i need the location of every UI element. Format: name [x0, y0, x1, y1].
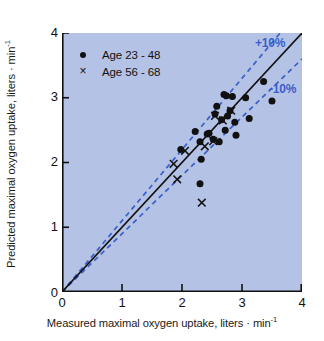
- y-axis-ticks: 4 3 2 1 0: [36, 0, 58, 341]
- legend-item-age-56-68: × Age 56 - 68: [72, 64, 192, 79]
- x-axis-title-text: Measured maximal oxygen uptake, liters ·…: [47, 317, 271, 329]
- data-point: [269, 97, 276, 104]
- figure-root: Predicted maximal oxygen uptake, liters …: [0, 0, 324, 341]
- y-tick-label: 1: [40, 220, 58, 233]
- data-point: [242, 94, 249, 101]
- annotation-plus-10-percent: +10%: [255, 36, 285, 50]
- x-tick-label: 0: [52, 296, 72, 310]
- y-tick-label: 2: [40, 155, 58, 168]
- cross-marker-icon: ×: [72, 64, 94, 79]
- y-tick-label: 3: [40, 90, 58, 103]
- data-point: [197, 138, 204, 145]
- data-point: [206, 130, 213, 137]
- data-point: [260, 78, 267, 85]
- data-point: [197, 180, 204, 187]
- circle-marker-icon: [72, 47, 94, 62]
- x-tick-label: 1: [112, 296, 132, 310]
- data-point: [173, 176, 181, 184]
- data-point: [246, 115, 253, 122]
- x-axis-title: Measured maximal oxygen uptake, liters ·…: [0, 317, 324, 329]
- x-axis-title-superscript: -1: [271, 315, 278, 324]
- data-point: [198, 199, 206, 207]
- legend-label: Age 56 - 68: [94, 66, 160, 78]
- y-tick-label: 4: [40, 26, 58, 39]
- data-point: [210, 136, 217, 143]
- data-point: [177, 146, 184, 153]
- annotation-minus-10-percent: -10%: [269, 82, 296, 96]
- data-point: [231, 119, 238, 126]
- data-point: [229, 93, 236, 100]
- legend: Age 23 - 48 × Age 56 - 68: [72, 47, 192, 81]
- data-point: [216, 138, 223, 145]
- data-point: [192, 128, 199, 135]
- data-point: [170, 160, 178, 168]
- plot-area: Age 23 - 48 × Age 56 - 68 +10% -10%: [62, 33, 302, 292]
- data-point: [198, 156, 205, 163]
- data-point: [227, 107, 234, 114]
- x-tick-label: 3: [232, 296, 252, 310]
- x-tick-label: 2: [172, 296, 192, 310]
- y-axis-title-text: Predicted maximal oxygen uptake, liters …: [5, 47, 17, 268]
- legend-label: Age 23 - 48: [94, 49, 160, 61]
- legend-item-age-23-48: Age 23 - 48: [72, 47, 192, 62]
- data-point: [222, 127, 229, 134]
- y-axis-title-superscript: -1: [3, 40, 12, 47]
- series-points-age-23-48: [177, 78, 275, 187]
- x-tick-label: 4: [292, 296, 312, 310]
- y-axis-title: Predicted maximal oxygen uptake, liters …: [2, 4, 20, 304]
- x-axis-ticks: 0 1 2 3 4: [0, 296, 324, 314]
- data-point: [218, 116, 225, 123]
- data-point: [233, 132, 240, 139]
- data-point: [212, 110, 219, 117]
- data-point: [213, 103, 220, 110]
- data-point: [223, 92, 230, 99]
